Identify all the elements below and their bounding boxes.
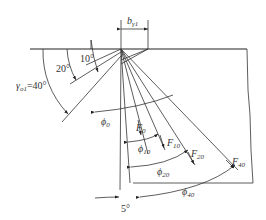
angle-20-label: 20° — [56, 63, 70, 74]
break-line — [247, 49, 253, 183]
angle-10-label: 10° — [80, 53, 94, 64]
rake-face-40 — [62, 56, 121, 122]
ray-back-1 — [121, 49, 148, 60]
ray-tool — [121, 49, 130, 183]
arc-phi0 — [95, 95, 173, 112]
f20-label: F20 — [190, 148, 205, 161]
ray-phi0 — [120, 49, 121, 190]
arc-5deg — [95, 197, 119, 198]
phi0-label: ϕ0 — [101, 116, 110, 129]
phi20-label: ϕ20 — [157, 166, 170, 179]
arc-40 — [43, 49, 68, 114]
angle-5-label: 5° — [121, 203, 130, 214]
ray-back-2 — [121, 49, 148, 64]
force-f10-arrow — [160, 135, 164, 148]
angle-40-label: γo1=40° — [16, 80, 47, 93]
chip-formation-diagram: bγ1 10° 20° γo1=40° ϕ0 F0 ϕ10 F10 ϕ20 F2… — [0, 0, 266, 220]
dim-label: bγ1 — [127, 15, 138, 28]
phi10-label: ϕ10 — [138, 143, 151, 156]
rake-face-20 — [70, 52, 121, 84]
